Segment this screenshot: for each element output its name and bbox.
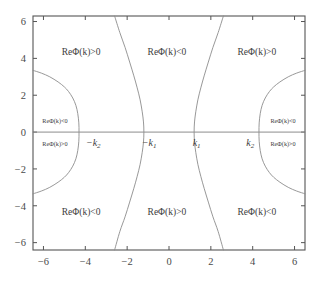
region-label-top-right-region: ReΦ(k)>0 [238,47,277,58]
y-tick-label: −6 [15,237,26,248]
region-label-left-pocket-upper: ReΦ(k)<0 [42,117,67,125]
x-tick-label: −6 [38,256,49,267]
x-tick-label: 0 [166,256,171,267]
region-label-bottom-left-region: ReΦ(k)<0 [62,207,101,218]
region-label-right-pocket-upper: ReΦ(k)<0 [270,117,295,125]
x-tick-label: 4 [250,256,256,267]
x-tick-label: −4 [80,256,92,267]
region-label-left-pocket-lower: ReΦ(k)>0 [42,140,67,148]
figure-root: −6−4−202466420−2−4−6 ReΦ(k)>0ReΦ(k)<0ReΦ… [0,0,318,281]
y-tick-label: 4 [21,53,27,64]
x-tick-label: −2 [122,256,133,267]
region-label-bottom-middle-region: ReΦ(k)>0 [148,207,187,218]
region-label-right-pocket-lower: ReΦ(k)>0 [270,140,295,148]
y-tick-label: −2 [15,164,26,175]
y-tick-label: 0 [21,127,26,138]
x-tick-label: 2 [208,256,213,267]
y-tick-label: −4 [15,201,27,212]
sign-region-plot: −6−4−202466420−2−4−6 ReΦ(k)>0ReΦ(k)<0ReΦ… [0,0,318,281]
y-tick-label: 2 [21,90,26,101]
region-label-top-middle-region: ReΦ(k)<0 [148,47,187,58]
region-label-top-left-region: ReΦ(k)>0 [62,47,101,58]
y-tick-label: 6 [21,16,26,27]
x-tick-label: 6 [292,256,297,267]
region-label-bottom-right-region: ReΦ(k)<0 [238,207,277,218]
